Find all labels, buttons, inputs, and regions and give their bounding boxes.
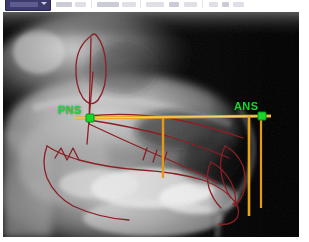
toolbar-item-contrast[interactable] [169,2,179,7]
page-margin-right [299,11,309,242]
radiograph-image [3,12,306,238]
toolbar-active-tool-icon [10,2,38,7]
toolbar-item-extra-c[interactable] [233,2,244,7]
page-margin-bottom [0,237,309,242]
landmark-label-pns[interactable]: PNS [58,105,82,116]
page-margin-left [0,11,3,242]
toolbar-item-extra-b[interactable] [222,2,229,7]
toolbar-item-trace[interactable] [97,2,119,7]
toolbar-item-zoom[interactable] [146,2,164,7]
chevron-down-icon [41,2,47,5]
toolbar-item-landmark[interactable] [122,2,136,7]
landmark-label-ans[interactable]: ANS [234,101,258,112]
toolbar-divider [140,0,141,8]
toolbar [0,0,309,11]
toolbar-item-extra-a[interactable] [209,2,218,7]
toolbar-active-tool-button[interactable] [5,0,51,11]
toolbar-item-measure[interactable] [75,2,86,7]
toolbar-divider [202,0,203,8]
radiograph-viewport[interactable]: PNS ANS [3,12,306,238]
landmark-marker-ans [258,112,266,120]
radiograph-svg [3,12,306,238]
toolbar-divider [91,0,92,8]
app-root: PNS ANS [0,0,309,242]
toolbar-item-select[interactable] [56,2,72,7]
toolbar-item-export[interactable] [184,2,197,7]
landmark-marker-pns [86,114,94,122]
